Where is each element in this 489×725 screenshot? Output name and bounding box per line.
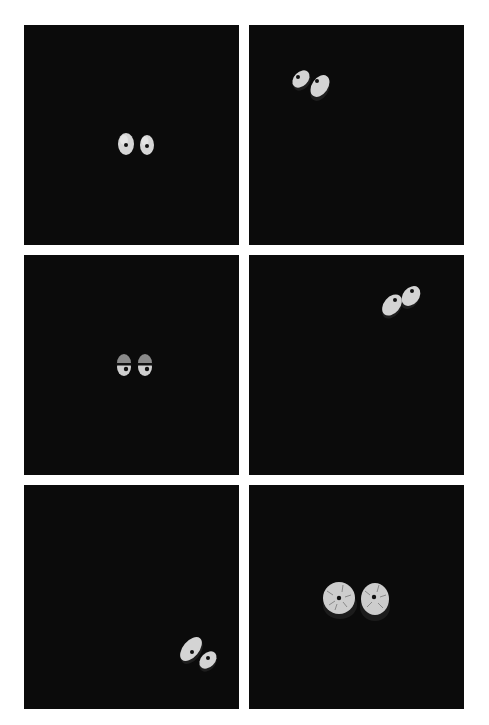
eye-pair (315, 577, 405, 637)
eye-pair (374, 277, 434, 327)
eye-pair (172, 625, 232, 680)
right-eye-icon (137, 354, 153, 376)
panel-top-right (249, 25, 464, 245)
panel-middle-right (249, 255, 464, 475)
right-eye-icon (361, 583, 389, 615)
panel-bottom-right (249, 485, 464, 709)
left-eye-icon (116, 354, 132, 376)
panel-top-left (24, 25, 239, 245)
right-eye-icon (140, 135, 154, 155)
eye-pair (284, 60, 344, 110)
left-eye-icon (118, 133, 134, 155)
left-eye-icon (323, 582, 355, 614)
eye-pair (112, 350, 162, 385)
eye-pair (114, 125, 164, 165)
panel-middle-left (24, 255, 239, 475)
panel-bottom-left (24, 485, 239, 709)
